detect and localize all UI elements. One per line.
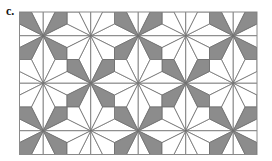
kite xyxy=(210,0,234,12)
kite xyxy=(257,155,272,161)
kite xyxy=(162,155,186,161)
kite xyxy=(0,155,20,161)
kite xyxy=(257,83,272,107)
kite xyxy=(0,36,20,60)
kite xyxy=(67,0,91,12)
diamond-half xyxy=(0,36,8,84)
kite xyxy=(0,131,20,155)
kite xyxy=(138,155,162,161)
kite xyxy=(115,155,139,161)
kite xyxy=(162,0,186,12)
kite xyxy=(43,0,67,12)
kite xyxy=(257,12,272,36)
kite xyxy=(257,107,272,131)
kite xyxy=(138,0,162,12)
kite xyxy=(115,0,139,12)
kite xyxy=(0,12,20,36)
kite xyxy=(0,107,20,131)
kite xyxy=(257,60,272,84)
diamond-half xyxy=(269,36,272,84)
diamond-half xyxy=(0,83,8,131)
kite xyxy=(257,36,272,60)
kite xyxy=(91,0,115,12)
kite xyxy=(257,131,272,155)
kite xyxy=(20,0,44,12)
kite xyxy=(67,155,91,161)
kite xyxy=(186,0,210,12)
kite xyxy=(186,155,210,161)
kite xyxy=(91,155,115,161)
kite xyxy=(233,0,257,12)
kite xyxy=(0,60,20,84)
diamond-half xyxy=(269,131,272,160)
diamond-half xyxy=(0,0,8,36)
kite xyxy=(0,0,20,12)
kite xyxy=(210,155,234,161)
kite xyxy=(257,0,272,12)
kite xyxy=(20,155,44,161)
geometric-star-tiling xyxy=(0,0,272,160)
kite xyxy=(0,83,20,107)
diamond-half xyxy=(269,0,272,36)
diamond-half xyxy=(0,131,8,160)
kite xyxy=(233,155,257,161)
diamond-half xyxy=(269,83,272,131)
kite xyxy=(43,155,67,161)
